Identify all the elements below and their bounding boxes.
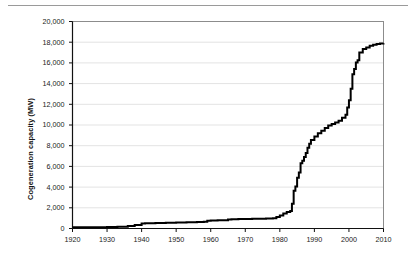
y-tick-label: 6,000 [25, 162, 65, 171]
y-tick-label: 4,000 [25, 183, 65, 192]
y-tick-label: 18,000 [25, 38, 65, 47]
gridlines [73, 22, 384, 208]
chart-plot: Cogeneration capacity (MW) 02,0004,0006,… [0, 0, 415, 270]
data-series-line [73, 43, 384, 227]
y-tick-label: 10,000 [25, 120, 65, 129]
y-tick-label: 2,000 [25, 203, 65, 212]
figure: Cogeneration capacity (MW) 02,0004,0006,… [0, 0, 415, 270]
y-tick-label: 20,000 [25, 17, 65, 26]
x-tick-label: 2010 [364, 235, 404, 244]
y-tick-label: 12,000 [25, 100, 65, 109]
y-tick-label: 0 [25, 224, 65, 233]
y-tick-label: 16,000 [25, 58, 65, 67]
y-tick-label: 14,000 [25, 79, 65, 88]
y-tick-label: 8,000 [25, 141, 65, 150]
